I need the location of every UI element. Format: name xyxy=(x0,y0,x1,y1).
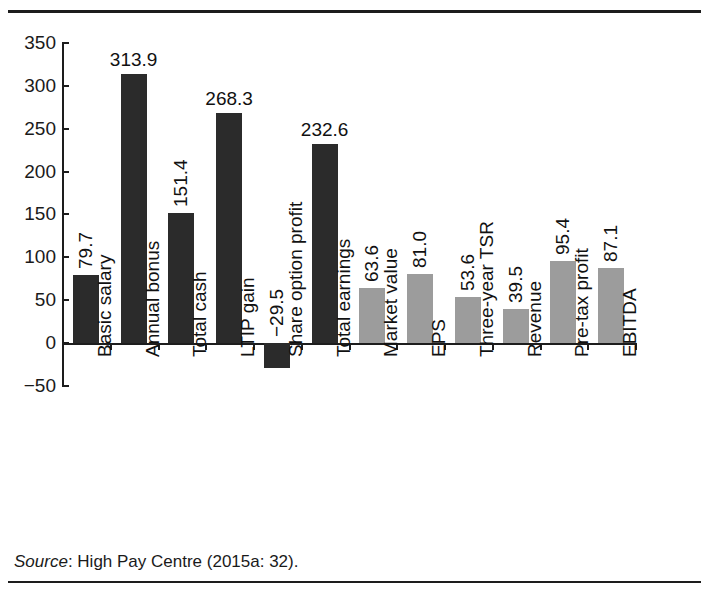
y-axis-tick-label: 150 xyxy=(10,204,56,223)
y-axis-tick xyxy=(62,85,69,87)
y-axis-tick xyxy=(62,171,69,173)
source-label: Source xyxy=(14,552,68,571)
value-label: 268.3 xyxy=(189,89,269,108)
y-axis-tick xyxy=(62,256,69,258)
y-axis-tick-label: 50 xyxy=(10,290,56,309)
source-note: Source: High Pay Centre (2015a: 32). xyxy=(14,552,298,572)
category-label: Annual bonus xyxy=(143,241,162,357)
category-label: LTIP gain xyxy=(238,277,257,357)
category-label: Basic salary xyxy=(95,255,114,357)
value-label: 232.6 xyxy=(285,120,365,139)
value-label: 87.1 xyxy=(601,225,620,262)
value-label: 79.7 xyxy=(76,232,95,269)
figure-container: 350300250200150100500−50 79.7313.9151.42… xyxy=(0,0,709,596)
value-label: 81.0 xyxy=(410,231,429,268)
category-label: Share option profit xyxy=(286,202,305,357)
category-label: Revenue xyxy=(525,281,544,357)
category-label: Pre-tax profit xyxy=(572,248,591,357)
value-label: 151.4 xyxy=(171,160,190,208)
y-axis-tick-label: −50 xyxy=(10,376,56,395)
value-label: 53.6 xyxy=(458,254,477,291)
category-label: Total earnings xyxy=(334,239,353,357)
value-label: −29.5 xyxy=(267,289,286,337)
y-axis-tick-label: 0 xyxy=(10,333,56,352)
source-citation: : High Pay Centre (2015a: 32). xyxy=(68,552,299,571)
y-axis-tick-label: 300 xyxy=(10,76,56,95)
y-axis-tick-label: 200 xyxy=(10,162,56,181)
value-label: 39.5 xyxy=(506,266,525,303)
category-label: EBITDA xyxy=(620,288,639,357)
category-label: Three-year TSR xyxy=(477,221,496,357)
value-label: 63.6 xyxy=(362,246,381,283)
y-axis-tick-label: 100 xyxy=(10,247,56,266)
value-label: 95.4 xyxy=(553,218,572,255)
y-axis-tick xyxy=(62,385,69,387)
category-label: Market value xyxy=(381,248,400,357)
figure-bottom-rule xyxy=(8,581,701,583)
y-axis-tick-label: 250 xyxy=(10,119,56,138)
y-axis-tick xyxy=(62,213,69,215)
y-axis-tick xyxy=(62,128,69,130)
y-axis-tick-label: 350 xyxy=(10,33,56,52)
category-label: Total cash xyxy=(190,271,209,357)
y-axis-tick xyxy=(62,299,69,301)
bar-chart-plot-area: 350300250200150100500−50 79.7313.9151.42… xyxy=(0,0,709,596)
y-axis-tick xyxy=(62,42,69,44)
y-axis-tick xyxy=(62,342,69,344)
value-label: 313.9 xyxy=(94,50,174,69)
category-label: EPS xyxy=(429,319,448,357)
